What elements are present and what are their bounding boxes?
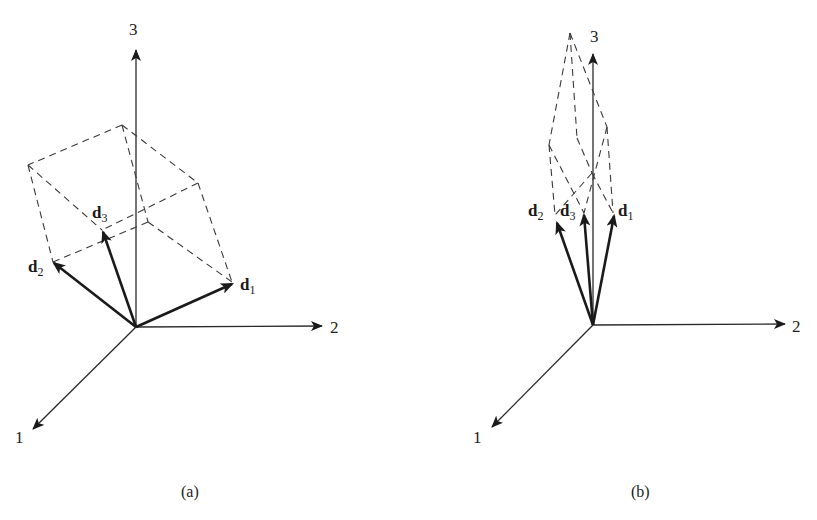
vector-label-d2: d2 <box>28 257 43 279</box>
panel-a: 3 2 1 d1 d2 d3 (a) <box>15 20 339 501</box>
vector-label-d2: d2 <box>528 201 543 223</box>
axis-1-label: 1 <box>15 428 24 447</box>
axis-3-label: 3 <box>590 27 599 46</box>
vector-label-d3: d3 <box>560 201 575 223</box>
axis-2-label: 2 <box>330 318 339 337</box>
caption-a: (a) <box>181 483 199 501</box>
axis-1-arrow <box>33 327 136 429</box>
vector-label-d1: d1 <box>240 275 255 297</box>
caption-b: (b) <box>631 483 650 501</box>
vector-label-d3: d3 <box>92 203 107 225</box>
axis-3-label: 3 <box>129 20 138 39</box>
axis-1-label: 1 <box>473 428 482 447</box>
vector-d1 <box>593 216 614 325</box>
vector-label-d1: d1 <box>618 201 633 223</box>
figure: 3 2 1 d1 d2 d3 (a) 3 2 1 <box>0 0 817 520</box>
parallelepiped-b <box>549 33 613 215</box>
axis-2-arrow <box>593 324 785 325</box>
axis-2-label: 2 <box>792 317 801 336</box>
axis-2-arrow <box>136 326 322 327</box>
vector-d1 <box>136 284 232 327</box>
parallelepiped-a <box>28 125 232 282</box>
panel-b: 3 2 1 d1 d2 d3 (b) <box>473 27 801 501</box>
axis-1-arrow <box>492 325 593 427</box>
